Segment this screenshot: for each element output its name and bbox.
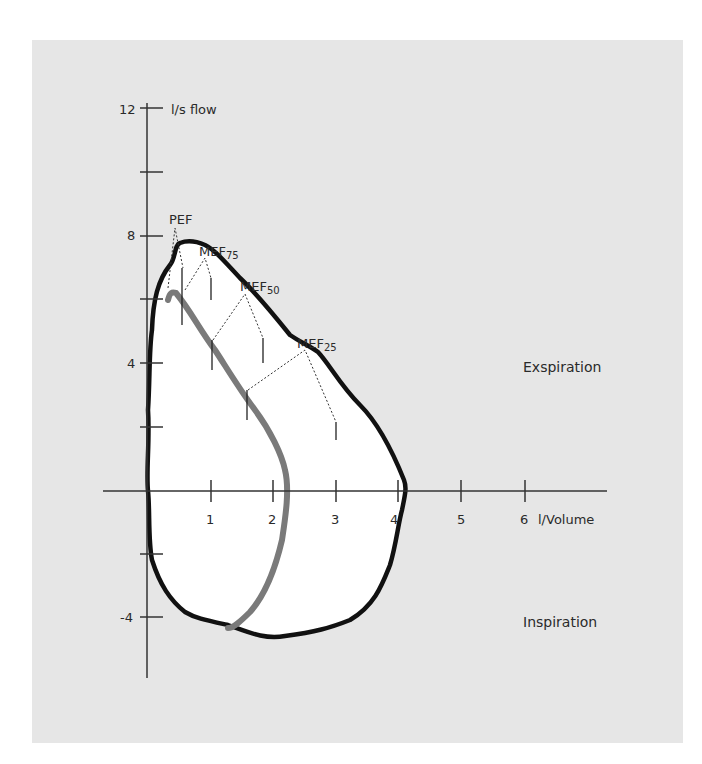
x-axis-title: l/Volume — [538, 512, 594, 527]
x-tick-label-6: 6 — [520, 512, 528, 527]
y-tick-label-12: 12 — [119, 102, 136, 117]
exspiration-label: Exspiration — [523, 359, 601, 375]
x-tick-label-3: 3 — [331, 512, 339, 527]
y-axis-title: l/s flow — [171, 102, 217, 117]
x-tick-label-1: 1 — [206, 512, 214, 527]
mef25-label: MEF25 — [297, 336, 337, 353]
x-tick-label-2: 2 — [268, 512, 276, 527]
pef-label: PEF — [169, 212, 193, 227]
mef75-label: MEF75 — [199, 244, 239, 261]
y-tick-label-m4: -4 — [120, 610, 133, 625]
y-tick-label-4: 4 — [127, 356, 135, 371]
x-tick-label-5: 5 — [457, 512, 465, 527]
y-tick-label-8: 8 — [127, 228, 135, 243]
mef50-label: MEF50 — [240, 279, 280, 296]
inspiration-label: Inspiration — [523, 614, 597, 630]
x-tick-label-4: 4 — [390, 512, 398, 527]
flow-volume-chart: 12 8 4 -4 1 2 3 4 5 6 l/s flow l/Volume … — [0, 0, 702, 764]
